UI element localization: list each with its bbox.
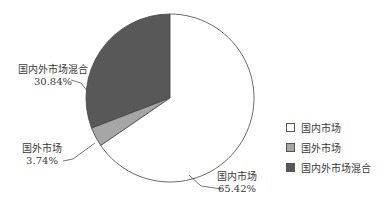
label-domestic-name: 国内市场 [217,171,257,183]
legend-label-domestic: 国内市场 [301,120,341,135]
legend-label-mixed: 国内外市场混合 [301,160,371,175]
legend-item-foreign: 国外市场 [286,137,371,157]
legend-item-mixed: 国内外市场混合 [286,157,371,177]
pie-slices [86,14,254,182]
label-foreign-name: 国外市场 [22,143,62,155]
legend-item-domestic: 国内市场 [286,117,371,137]
legend: 国内市场 国外市场 国内外市场混合 [286,117,371,177]
legend-label-foreign: 国外市场 [301,140,341,155]
legend-swatch-mixed [286,163,295,172]
label-domestic-pct: 65.42% [217,183,257,195]
leader-foreign [63,143,95,161]
label-mixed: 国内外市场混合 30.84% [18,64,88,88]
legend-swatch-domestic [286,123,295,132]
legend-swatch-foreign [286,143,295,152]
label-foreign-pct: 3.74% [22,155,62,167]
label-mixed-pct: 30.84% [18,76,88,88]
label-mixed-name: 国内外市场混合 [18,64,88,76]
label-foreign: 国外市场 3.74% [22,143,62,167]
label-domestic: 国内市场 65.42% [217,171,257,195]
